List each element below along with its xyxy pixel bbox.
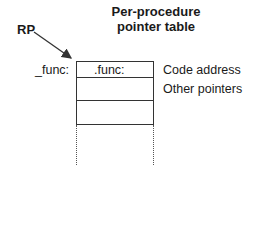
annotation-code-address: Code address (163, 63, 241, 77)
row-divider (76, 100, 154, 101)
entry-label: _func: (35, 63, 69, 77)
table-cell-func: .func: (94, 63, 125, 77)
continuation-line-left (76, 125, 77, 165)
continuation-line-right (153, 125, 154, 165)
annotation-other-pointers: Other pointers (163, 82, 242, 96)
row-divider (76, 77, 154, 78)
